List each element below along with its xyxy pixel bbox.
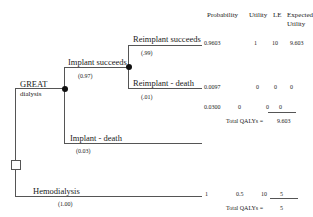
- hemo-probability: 1: [205, 191, 208, 197]
- header-le: LE: [273, 12, 282, 19]
- row1-eu: 9.603: [290, 40, 304, 46]
- hemo-total-label: Total QALYs =: [226, 205, 263, 211]
- hemodialysis-prob: (1.00): [58, 201, 73, 207]
- row2-utility: 0: [256, 84, 259, 90]
- header-probability: Probability: [207, 12, 238, 19]
- implant-succeeds-line: [64, 67, 128, 68]
- decision-node: [11, 160, 21, 170]
- row1-probability: 0.9603: [204, 40, 221, 46]
- great-label: GREAT: [20, 80, 47, 89]
- row1-le: 10: [272, 40, 278, 46]
- sum-underline-great: [268, 112, 296, 113]
- implant-succeeds-prob: (0.97): [78, 73, 93, 79]
- chance1-vertical-line: [64, 67, 65, 143]
- chance-node-2: [126, 64, 132, 70]
- row3-le: 0: [266, 104, 269, 110]
- implant-death-line: [64, 143, 202, 144]
- hemo-eu: 5: [280, 191, 283, 197]
- reimplant-succeeds-line: [128, 45, 202, 46]
- row2-le: 0: [274, 84, 277, 90]
- reimplant-death-line: [128, 88, 202, 89]
- reimplant-death-label: Reimplant - death: [133, 79, 194, 88]
- header-expected-utility: Expected: [287, 12, 313, 19]
- header-expected-utility-2: Utility: [287, 21, 305, 28]
- great-total-value: 9.603: [277, 118, 291, 124]
- row3-probability: 0.0300: [204, 104, 221, 110]
- reimplant-succeeds-label: Reimplant succeeds: [133, 35, 201, 44]
- hemodialysis-label: Hemodialysis: [33, 187, 80, 196]
- great-total-label: Total QALYs =: [226, 118, 263, 124]
- implant-death-label: Implant - death: [70, 134, 122, 143]
- reimplant-death-prob: (.01): [141, 94, 153, 100]
- header-utility: Utility: [249, 12, 267, 19]
- row1-utility: 1: [254, 40, 257, 46]
- hemo-total-value: 5: [280, 205, 283, 211]
- hemodialysis-branch-line: [15, 196, 202, 197]
- implant-death-prob: (0.03): [76, 148, 91, 154]
- hemo-le: 10: [261, 191, 267, 197]
- row2-eu: 0: [290, 84, 293, 90]
- row2-probability: 0.0097: [204, 84, 221, 90]
- root-vertical-line: [15, 88, 16, 197]
- great-sublabel: dialysis: [20, 91, 41, 98]
- sum-underline-hemo: [270, 198, 298, 199]
- row3-eu: 0: [279, 104, 282, 110]
- hemo-utility: 0.5: [236, 191, 244, 197]
- row3-utility: 0: [238, 104, 241, 110]
- reimplant-succeeds-prob: (.99): [141, 50, 153, 56]
- chance-node-1: [62, 86, 68, 92]
- implant-succeeds-label: Implant succeeds: [68, 58, 127, 67]
